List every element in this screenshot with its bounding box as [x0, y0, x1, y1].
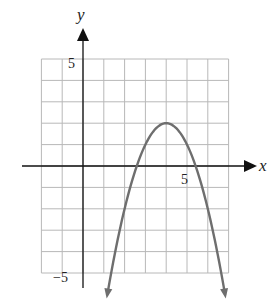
- x-tick-label-5: 5: [181, 172, 188, 187]
- curve-arrow-icon: [220, 288, 228, 299]
- x-axis-label: x: [258, 156, 267, 175]
- x-axis-arrow-icon: [244, 160, 257, 172]
- y-tick-label-neg5: −5: [53, 270, 68, 285]
- curve-arrow-icon: [104, 288, 112, 299]
- parabola-graph: y x 5 5 −5: [0, 0, 273, 306]
- y-tick-label-5: 5: [68, 56, 75, 71]
- y-axis-label: y: [75, 5, 85, 24]
- curve-arrowheads: [104, 288, 228, 299]
- y-axis-arrow-icon: [77, 28, 89, 41]
